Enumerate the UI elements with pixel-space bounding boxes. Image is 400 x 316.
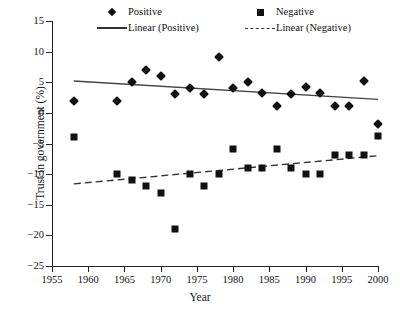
- legend-item-positive: Positive: [96, 6, 244, 18]
- data-point-negative: [244, 165, 251, 172]
- data-point-negative: [360, 151, 367, 158]
- legend-label-negative: Negative: [276, 6, 314, 18]
- x-tick: [269, 266, 270, 272]
- y-tick-label: −20: [28, 230, 44, 240]
- legend-item-negative: Negative: [244, 6, 314, 18]
- x-tick: [52, 266, 53, 272]
- data-point-negative: [375, 133, 382, 140]
- x-tick-label: 1975: [186, 274, 207, 285]
- data-point-negative: [273, 146, 280, 153]
- x-tick: [342, 266, 343, 272]
- data-point-negative: [288, 165, 295, 172]
- data-point-negative: [302, 171, 309, 178]
- x-tick-label: 1970: [150, 274, 171, 285]
- x-tick: [88, 266, 89, 272]
- x-tick-label: 1955: [42, 274, 63, 285]
- x-tick-label: 1990: [295, 274, 316, 285]
- data-point-negative: [143, 183, 150, 190]
- x-axis-line: [52, 266, 379, 267]
- x-tick-label: 1980: [223, 274, 244, 285]
- y-axis-title: Trust in government (%): [34, 58, 46, 228]
- x-tick-label: 2000: [368, 274, 389, 285]
- data-point-negative: [215, 171, 222, 178]
- square-marker-icon: [244, 9, 276, 16]
- data-point-negative: [157, 189, 164, 196]
- diamond-marker-icon: [96, 9, 128, 15]
- x-tick: [161, 266, 162, 272]
- chart-figure: Positive Negative Linear (Positive) Line…: [0, 0, 400, 316]
- x-tick-label: 1965: [114, 274, 135, 285]
- legend-row-markers: Positive Negative: [96, 4, 396, 20]
- y-tick-label: −25: [28, 261, 44, 271]
- x-tick: [306, 266, 307, 272]
- data-point-negative: [114, 171, 121, 178]
- data-point-negative: [201, 183, 208, 190]
- data-point-negative: [259, 165, 266, 172]
- y-tick-label: 15: [34, 16, 45, 26]
- data-point-negative: [172, 226, 179, 233]
- y-axis-title-wrap: Trust in government (%): [10, 0, 26, 290]
- x-axis-title: Year: [0, 291, 400, 303]
- data-point-negative: [230, 146, 237, 153]
- x-tick-label: 1960: [78, 274, 99, 285]
- x-tick: [233, 266, 234, 272]
- data-point-negative: [128, 177, 135, 184]
- x-tick: [124, 266, 125, 272]
- data-point-negative: [317, 171, 324, 178]
- x-tick-label: 1985: [259, 274, 280, 285]
- legend-label-positive: Positive: [128, 6, 162, 18]
- x-tick: [378, 266, 379, 272]
- x-tick-label: 1995: [331, 274, 352, 285]
- y-tick-label: 10: [34, 47, 45, 57]
- data-point-negative: [346, 151, 353, 158]
- data-point-negative: [70, 134, 77, 141]
- data-point-negative: [331, 151, 338, 158]
- x-tick: [197, 266, 198, 272]
- data-point-negative: [186, 171, 193, 178]
